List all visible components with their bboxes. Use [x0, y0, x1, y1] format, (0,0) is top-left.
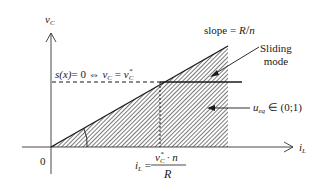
sliding-mode-line2: mode — [260, 55, 292, 68]
il-num-rest: · n — [164, 151, 178, 163]
il-formula-denominator: R — [164, 168, 171, 180]
origin-label: 0 — [40, 156, 46, 167]
sliding-mode-line1: Sliding — [260, 42, 292, 55]
y-axis-label-sub: C — [50, 19, 55, 27]
surface-v2-sub: C — [129, 74, 134, 82]
sliding-surface-label: s(x)= 0 ⇔ vC = vC* — [55, 68, 133, 82]
surface-eq2: = — [112, 68, 124, 80]
x-axis-label: iL — [299, 142, 306, 155]
il-formula-numerator: vC* · n — [155, 151, 178, 165]
y-axis-label: vC — [45, 14, 55, 27]
slope-denominator: n — [249, 24, 255, 36]
ueq-rest: ∈ (0;1) — [265, 101, 302, 113]
slope-label: slope = R/n — [204, 23, 255, 36]
ueq-label: ueq ∈ (0;1) — [253, 102, 302, 115]
slope-prefix: slope = — [204, 24, 239, 36]
il-eq: = — [142, 159, 151, 171]
il-formula-lhs: iL = — [135, 160, 151, 173]
surface-lhs: s(x) — [55, 68, 72, 80]
slope-numerator: R — [239, 24, 246, 36]
sliding-mode-label: Sliding mode — [260, 42, 292, 68]
surface-eq: = 0 ⇔ — [72, 68, 103, 80]
x-axis-label-sub: L — [302, 147, 306, 155]
surface-v2-sup: * — [129, 67, 133, 75]
